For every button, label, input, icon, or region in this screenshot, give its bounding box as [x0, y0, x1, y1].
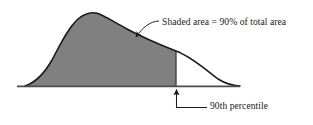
percentile-leader-line	[177, 90, 208, 108]
shaded-area-region	[25, 13, 176, 86]
percentile-density-figure: Shaded area = 90% of total area 90th per…	[0, 0, 313, 125]
shaded-area-annotation-label: Shaded area = 90% of total area	[162, 17, 286, 27]
percentile-annotation-label: 90th percentile	[210, 101, 268, 111]
